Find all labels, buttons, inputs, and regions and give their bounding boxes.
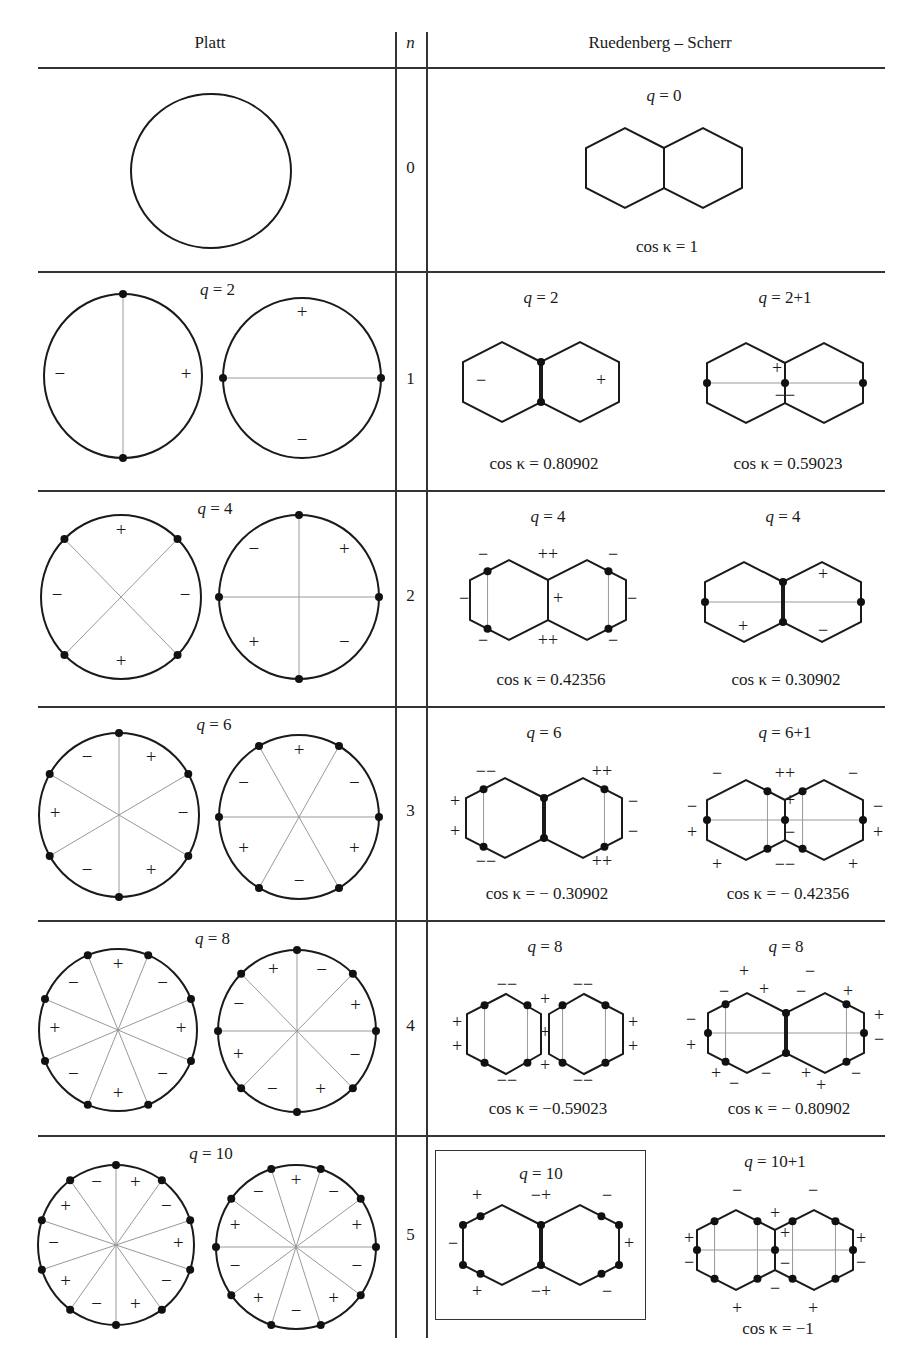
node-dot bbox=[459, 1221, 467, 1229]
node-dot bbox=[722, 1058, 730, 1066]
minus-sign: − bbox=[178, 802, 189, 823]
node-dot bbox=[857, 598, 865, 606]
node-dot bbox=[255, 742, 263, 750]
cos-kappa-label: cos κ = −0.59023 bbox=[489, 1099, 607, 1118]
minus-sign: − bbox=[161, 1270, 172, 1291]
node-dot bbox=[597, 1212, 605, 1220]
minus-sign: − bbox=[729, 1073, 739, 1093]
node-dot bbox=[559, 1001, 567, 1009]
minus-sign: − bbox=[628, 821, 638, 841]
minus-sign: − bbox=[297, 429, 308, 450]
node-dot bbox=[481, 1059, 489, 1067]
platt-cell-row-0 bbox=[131, 94, 291, 248]
node-dot bbox=[831, 1217, 839, 1225]
q-label: q = 2+1 bbox=[758, 288, 811, 307]
rs-cell-row-5: q = 10+1cos κ = −1−−++−++−−−++ bbox=[684, 1152, 866, 1338]
minus-sign: − bbox=[848, 763, 858, 783]
minus-sign: − bbox=[459, 588, 469, 608]
node-dot bbox=[859, 379, 867, 387]
q-label: q = 6 bbox=[526, 723, 561, 742]
minus-sign: − bbox=[294, 870, 305, 891]
node-dot bbox=[84, 951, 92, 959]
minus-sign: − bbox=[82, 859, 93, 880]
minus-sign: − bbox=[253, 1181, 264, 1202]
node-dot bbox=[484, 567, 492, 575]
cos-kappa-label: cos κ = 0.42356 bbox=[497, 670, 606, 689]
plus-sign: + bbox=[848, 854, 858, 874]
rs-cell-row-2: q = 4cos κ = 0.30902++− bbox=[701, 507, 865, 689]
minus-sign: − bbox=[82, 746, 93, 767]
plus-sign: + bbox=[181, 363, 192, 384]
platt-circle: +−+−+−+− bbox=[214, 946, 380, 1116]
node-dot bbox=[267, 1321, 275, 1329]
minus-sign: − bbox=[719, 981, 729, 1001]
q-label: q = 10 bbox=[519, 1164, 563, 1183]
node-dot bbox=[293, 1108, 301, 1116]
node-dot bbox=[357, 1291, 365, 1299]
plus-sign: + bbox=[60, 1270, 71, 1291]
node-dot bbox=[187, 995, 195, 1003]
minus-sign: − bbox=[770, 1278, 780, 1298]
cos-kappa-label: cos κ = 0.59023 bbox=[734, 454, 843, 473]
plus-sign: + bbox=[785, 790, 795, 810]
node-dot bbox=[753, 1217, 761, 1225]
diagram-canvas: q = 2−++−q = 4+−+−+−+−q = 6+−+−+−+−+−+−q… bbox=[0, 0, 911, 1361]
node-dot bbox=[537, 1261, 545, 1269]
minus-sign: − bbox=[684, 1252, 694, 1272]
plus-sign: + bbox=[843, 981, 853, 1001]
platt-circle: +−+− bbox=[41, 515, 201, 679]
rs-cell-row-1: q = 2+1cos κ = 0.59023+−− bbox=[703, 288, 867, 473]
node-dot bbox=[227, 1291, 235, 1299]
minus-sign: − bbox=[628, 791, 638, 811]
node-dot bbox=[771, 1246, 779, 1254]
platt-cell-row-2: q = 4+−+−+−+− bbox=[41, 499, 383, 683]
node-dot bbox=[46, 852, 54, 860]
minus-sign: − bbox=[608, 544, 618, 564]
plus-sign: + bbox=[808, 1298, 818, 1318]
plus-sign: + bbox=[350, 994, 361, 1015]
node-dot bbox=[375, 813, 383, 821]
minus-sign: − bbox=[48, 1232, 59, 1253]
node-dot bbox=[601, 1059, 609, 1067]
node-dot bbox=[377, 374, 385, 382]
minus-sign: − bbox=[91, 1293, 102, 1314]
minus-sign: − bbox=[873, 796, 883, 816]
minus-sign: −− bbox=[476, 851, 496, 871]
node-dot bbox=[779, 578, 787, 586]
node-dot bbox=[186, 1216, 194, 1224]
node-dot bbox=[600, 785, 608, 793]
minus-sign: − bbox=[780, 1253, 790, 1273]
minus-sign: − bbox=[349, 772, 360, 793]
cos-kappa-label: cos κ = 0.30902 bbox=[732, 670, 841, 689]
plus-sign: + bbox=[130, 1171, 141, 1192]
plus-sign: + bbox=[540, 1055, 550, 1075]
plus-sign: −+ bbox=[531, 1185, 551, 1205]
plus-sign: + bbox=[176, 1017, 187, 1038]
node-dot bbox=[860, 1029, 868, 1037]
platt-circle: −+ bbox=[44, 290, 202, 462]
minus-sign: −− bbox=[573, 1070, 593, 1090]
plus-sign: + bbox=[116, 650, 127, 671]
platt-circle: +−+−+−+− bbox=[39, 949, 197, 1111]
node-dot bbox=[237, 970, 245, 978]
minus-sign: − bbox=[328, 1181, 339, 1202]
node-dot bbox=[184, 770, 192, 778]
minus-sign: − bbox=[448, 1233, 458, 1253]
q-label: q = 2 bbox=[523, 288, 558, 307]
node-dot bbox=[540, 834, 548, 842]
minus-sign: − bbox=[808, 1180, 818, 1200]
minus-sign: − bbox=[157, 1063, 168, 1084]
cos-kappa-label: cos κ = 0.80902 bbox=[490, 454, 599, 473]
minus-sign: − bbox=[627, 588, 637, 608]
minus-sign: − bbox=[874, 1029, 884, 1049]
node-dot bbox=[112, 1161, 120, 1169]
plus-sign: ++ bbox=[538, 630, 558, 650]
plus-sign: + bbox=[113, 1082, 124, 1103]
node-dot bbox=[703, 379, 711, 387]
plus-sign: + bbox=[628, 1036, 638, 1056]
node-dot bbox=[477, 1212, 485, 1220]
plus-sign: + bbox=[233, 1043, 244, 1064]
plus-sign: + bbox=[874, 1005, 884, 1025]
platt-circle: +− bbox=[219, 298, 385, 458]
minus-sign: − bbox=[805, 961, 815, 981]
